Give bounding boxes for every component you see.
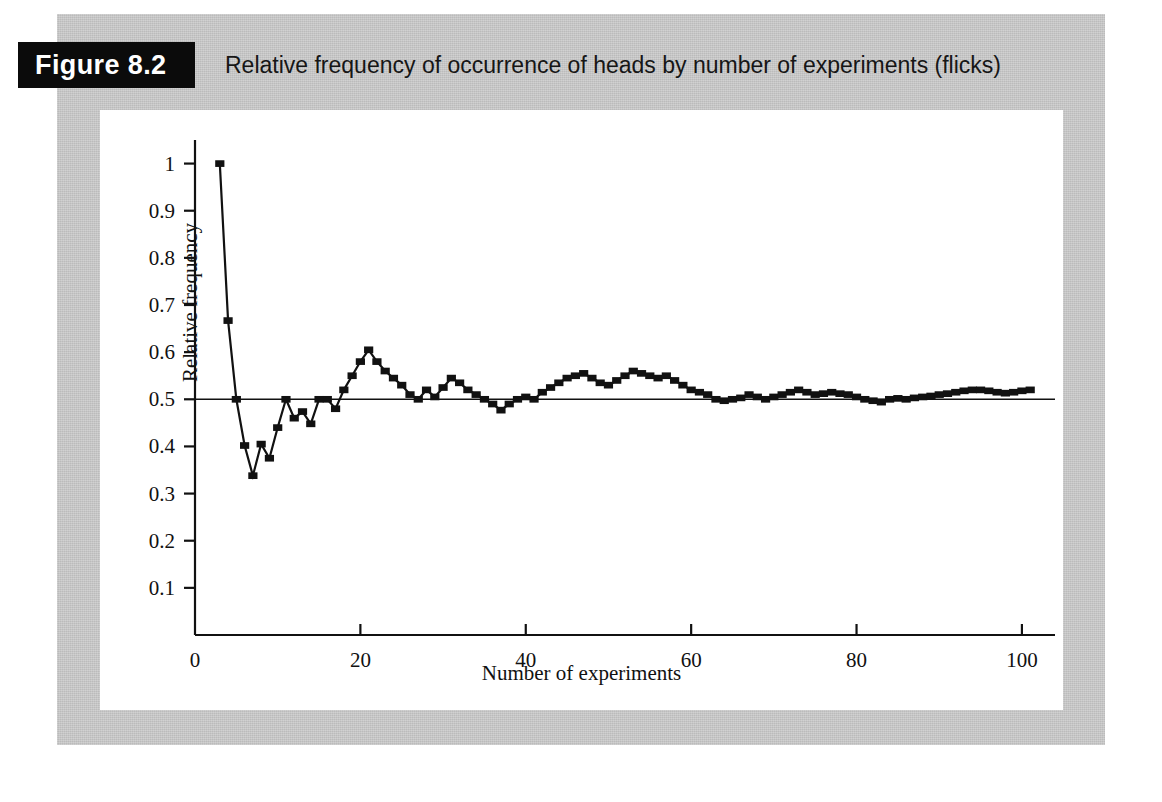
data-point-marker [868, 397, 877, 404]
data-point-marker [637, 370, 646, 377]
data-point-marker [629, 368, 638, 375]
y-tick-label: 0.5 [149, 387, 175, 411]
data-point-marker [529, 396, 538, 403]
figure-root: Figure 8.2 Relative frequency of occurre… [0, 0, 1162, 802]
series-markers [215, 160, 1035, 479]
data-point-marker [976, 387, 985, 394]
data-point-marker [778, 391, 787, 398]
data-point-marker [662, 372, 671, 379]
y-tick-label: 0.1 [149, 576, 175, 600]
data-point-marker [794, 387, 803, 394]
data-point-marker [323, 396, 332, 403]
data-point-marker [612, 377, 621, 384]
data-point-marker [728, 396, 737, 403]
data-point-marker [860, 396, 869, 403]
data-point-marker [959, 387, 968, 394]
data-point-marker [546, 384, 555, 391]
data-point-marker [579, 370, 588, 377]
y-tick-label: 0.9 [149, 199, 175, 223]
data-point-marker [240, 442, 249, 449]
data-point-marker [885, 396, 894, 403]
y-tick-label: 0.3 [149, 482, 175, 506]
data-point-marker [248, 472, 257, 479]
data-point-marker [397, 382, 406, 389]
x-axis-tick-labels: 020406080100 [190, 648, 1038, 672]
data-point-marker [695, 389, 704, 396]
x-tick-label: 60 [681, 648, 702, 672]
data-point-marker [364, 346, 373, 353]
y-tick-label: 0.4 [149, 434, 176, 458]
data-point-marker [348, 372, 357, 379]
data-point-marker [306, 420, 315, 427]
data-point-marker [835, 390, 844, 397]
data-point-marker [844, 391, 853, 398]
data-point-marker [910, 395, 919, 402]
data-point-marker [984, 387, 993, 394]
data-point-marker [554, 379, 563, 386]
figure-caption: Relative frequency of occurrence of head… [225, 47, 1105, 83]
x-tick-label: 0 [190, 648, 201, 672]
figure-number-tag: Figure 8.2 [18, 42, 195, 88]
data-point-marker [596, 379, 605, 386]
data-point-marker [513, 396, 522, 403]
data-point-marker [877, 399, 886, 406]
data-point-marker [852, 394, 861, 401]
data-point-marker [290, 415, 299, 422]
data-point-marker [926, 393, 935, 400]
x-tick-label: 20 [350, 648, 371, 672]
data-point-marker [422, 387, 431, 394]
data-point-marker [438, 384, 447, 391]
x-tick-label: 40 [515, 648, 536, 672]
data-point-marker [720, 397, 729, 404]
series-line [220, 164, 1030, 476]
data-point-marker [761, 396, 770, 403]
data-point-marker [381, 368, 390, 375]
data-point-marker [496, 407, 505, 414]
data-point-marker [298, 408, 307, 415]
data-point-marker [223, 317, 232, 324]
data-point-marker [620, 372, 629, 379]
data-point-marker [257, 441, 266, 448]
data-point-marker [968, 387, 977, 394]
data-point-marker [645, 372, 654, 379]
data-point-marker [563, 375, 572, 382]
data-point-marker [232, 396, 241, 403]
data-point-marker [405, 391, 414, 398]
data-point-marker [1017, 387, 1026, 394]
data-point-marker [744, 391, 753, 398]
data-point-marker [488, 401, 497, 408]
data-point-marker [463, 387, 472, 394]
data-point-marker [538, 389, 547, 396]
data-point-marker [273, 424, 282, 431]
data-point-marker [993, 389, 1002, 396]
data-point-marker [687, 387, 696, 394]
data-point-marker [356, 358, 365, 365]
data-point-marker [587, 375, 596, 382]
data-point-marker [1026, 387, 1035, 394]
data-point-marker [331, 405, 340, 412]
data-point-marker [703, 391, 712, 398]
plot-card: Relative frequency Number of experiments… [100, 110, 1063, 710]
data-point-marker [786, 389, 795, 396]
data-point-marker [935, 391, 944, 398]
data-point-marker [902, 396, 911, 403]
y-tick-label: 0.6 [149, 340, 175, 364]
data-point-marker [811, 391, 820, 398]
data-point-marker [571, 372, 580, 379]
x-tick-label: 80 [846, 648, 867, 672]
x-axis-ticks [360, 624, 1022, 635]
data-point-marker [1009, 389, 1018, 396]
data-point-marker [265, 455, 274, 462]
data-point-marker [521, 394, 530, 401]
data-point-marker [819, 390, 828, 397]
y-tick-label: 0.8 [149, 246, 175, 270]
y-axis-ticks [184, 164, 195, 588]
data-point-marker [480, 396, 489, 403]
data-point-marker [769, 394, 778, 401]
data-point-marker [430, 394, 439, 401]
data-point-marker [670, 377, 679, 384]
data-point-marker [372, 358, 381, 365]
data-point-marker [711, 396, 720, 403]
y-tick-label: 0.2 [149, 529, 175, 553]
y-axis-tick-labels: 0.10.20.30.40.50.60.70.80.91 [149, 152, 176, 600]
